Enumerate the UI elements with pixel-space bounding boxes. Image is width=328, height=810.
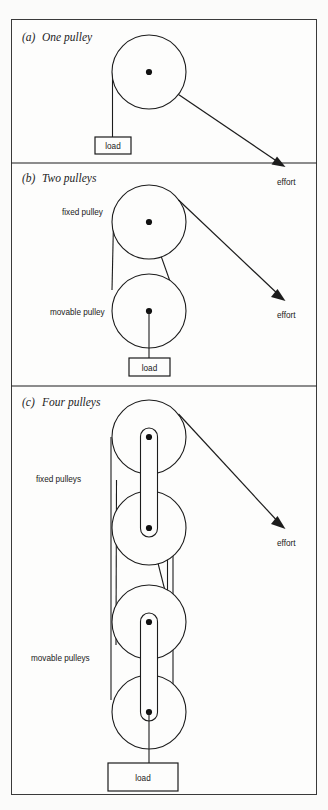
fixed-pulleys-label-c: fixed pulleys (36, 475, 81, 484)
effort-arrowhead-b (271, 289, 286, 301)
load-label-b: load (142, 364, 158, 373)
section-c-title: Four pulleys (41, 396, 101, 409)
effort-arrowhead-a (272, 157, 286, 168)
section-two-pulleys: (b) Two pulleys fixed pulley movable pul… (12, 172, 317, 386)
load-label-a: load (105, 142, 121, 151)
effort-label-c: effort (277, 539, 296, 548)
pulley-axle-a1 (146, 69, 152, 75)
section-a-enumerator: (a) (22, 31, 36, 44)
load-label-c: load (135, 774, 151, 783)
section-c-enumerator: (c) (22, 396, 35, 409)
figure-page: (a) One pulley effort load (b) Two pulle… (0, 0, 328, 810)
section-b-title: Two pulleys (42, 172, 97, 185)
rope-effort-segment-a (179, 95, 282, 165)
pulley-axle-c-fixed-1 (146, 434, 152, 440)
movable-pulley-yoke-c (141, 613, 158, 721)
section-b-enumerator: (b) (22, 172, 36, 185)
section-one-pulley: (a) One pulley effort load (12, 31, 317, 187)
pulley-diagram: (a) One pulley effort load (b) Two pulle… (0, 0, 328, 810)
pulley-axle-c-fixed-2 (146, 525, 152, 531)
effort-label-b: effort (277, 311, 296, 320)
pulley-axle-b-fixed (146, 219, 152, 225)
movable-pulley-label-b: movable pulley (50, 308, 106, 317)
section-four-pulleys: (c) Four pulleys (22, 396, 296, 791)
rope-effort-segment-b (179, 200, 282, 297)
section-a-title: One pulley (42, 31, 93, 44)
fixed-pulley-yoke-c (141, 428, 158, 537)
movable-pulleys-label-c: movable pulleys (31, 654, 90, 663)
fixed-pulley-label-b: fixed pulley (62, 208, 104, 217)
pulley-axle-c-movable-1 (146, 619, 152, 625)
effort-arrowhead-c (271, 516, 286, 529)
rope-effort-segment-c (179, 414, 282, 525)
effort-label-a: effort (277, 178, 296, 187)
